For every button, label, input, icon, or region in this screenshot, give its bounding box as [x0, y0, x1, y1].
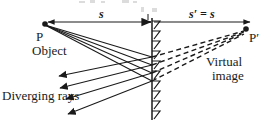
ray-diagram-figure: P Object Diverging rays s s′ = s P′ Virt… — [0, 0, 271, 120]
object-point-label: P — [36, 30, 43, 44]
reflected-rays — [59, 57, 152, 114]
object-label: Object — [32, 44, 67, 58]
image-point-marker — [243, 26, 249, 32]
image-point-label: P′ — [249, 31, 259, 45]
virtual-image-label-line2: image — [206, 69, 244, 83]
virtual-image-label-line1: Virtual — [206, 55, 244, 69]
image-distance-label: s′ = s — [189, 8, 215, 21]
object-distance-label: s — [99, 8, 104, 21]
mirror-hatching — [152, 21, 160, 119]
virtual-image-label: Virtual image — [206, 55, 244, 82]
diverging-rays-label: Diverging rays — [2, 89, 79, 103]
